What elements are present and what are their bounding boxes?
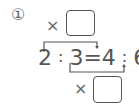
ratio-colon-1: : [58, 44, 63, 70]
bottom-multiply-sign: × [74, 81, 87, 97]
ratio-equation: 2:3=4:6 [38, 44, 139, 71]
equals-sign: = [83, 45, 101, 71]
ratio-term-d: 6 [133, 45, 139, 71]
ratio-term-b: 3 [69, 45, 83, 71]
ratio-colon-2: : [122, 44, 127, 70]
ratio-term-a: 2 [38, 45, 52, 71]
bottom-answer-box[interactable] [93, 76, 122, 103]
ratio-term-c: 4 [102, 45, 116, 71]
